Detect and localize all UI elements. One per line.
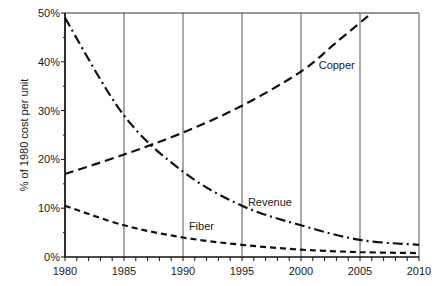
x-tick-label: 1985 [112, 265, 136, 277]
x-tick-label: 2005 [348, 265, 372, 277]
x-tick-label: 1980 [53, 265, 77, 277]
y-tick-label: 10% [38, 202, 60, 214]
y-tick-label: 50% [38, 7, 60, 19]
y-tick-label: 40% [38, 56, 60, 68]
label-copper: Copper [319, 59, 355, 71]
series-copper-line [65, 13, 372, 174]
label-revenue: Revenue [248, 196, 292, 208]
x-tick-label: 1990 [171, 265, 195, 277]
y-tick-label: 0% [44, 251, 60, 263]
series-labels: CopperRevenueFiber [189, 59, 355, 232]
line-chart: 1980198519901995200020052010 0%10%20%30%… [0, 0, 438, 286]
x-axis-ticks: 1980198519901995200020052010 [53, 257, 431, 277]
label-fiber: Fiber [189, 220, 214, 232]
y-tick-label: 30% [38, 105, 60, 117]
x-tick-label: 2000 [289, 265, 313, 277]
y-tick-label: 20% [38, 153, 60, 165]
x-tick-label: 2010 [407, 265, 431, 277]
y-axis-title: % of 1980 cost per unit [18, 79, 30, 192]
x-tick-label: 1995 [230, 265, 254, 277]
y-axis-ticks: 0%10%20%30%40%50% [38, 7, 65, 263]
vertical-gridlines [65, 13, 419, 257]
